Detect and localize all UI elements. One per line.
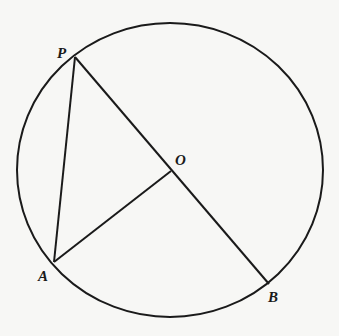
segment-ao-radius [54, 171, 171, 262]
segment-pb-diameter [75, 57, 269, 284]
segment-pa [54, 57, 75, 262]
label-point-b: B [267, 289, 278, 305]
circle-diagram: P O A B [0, 0, 339, 336]
label-point-o: O [175, 152, 186, 168]
label-point-p: P [57, 45, 67, 61]
label-point-a: A [37, 268, 48, 284]
